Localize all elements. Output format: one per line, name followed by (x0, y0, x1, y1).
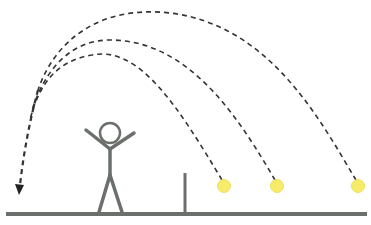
trajectory-diagram: Stick figure with arms raised stands on … (0, 0, 371, 225)
ball-2 (271, 180, 284, 193)
trajectory-ball-3 (38, 12, 356, 180)
trajectory-descent (20, 90, 38, 185)
trajectories (20, 12, 356, 185)
stick-figure (86, 123, 134, 212)
trajectory-ball-2 (32, 40, 275, 180)
figure-left-leg (99, 175, 110, 212)
figure-right-leg (110, 175, 122, 212)
ball-3 (352, 180, 365, 193)
diagram-canvas (0, 0, 371, 225)
ball-1 (218, 180, 231, 193)
arrowhead-icon (15, 184, 24, 195)
balls (218, 180, 365, 193)
figure-head (100, 123, 120, 143)
